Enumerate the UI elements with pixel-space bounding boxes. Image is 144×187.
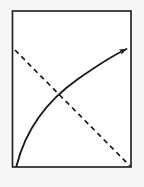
bounding-rectangle	[13, 11, 132, 167]
diagram-canvas	[0, 0, 144, 187]
figure-root	[0, 0, 144, 187]
